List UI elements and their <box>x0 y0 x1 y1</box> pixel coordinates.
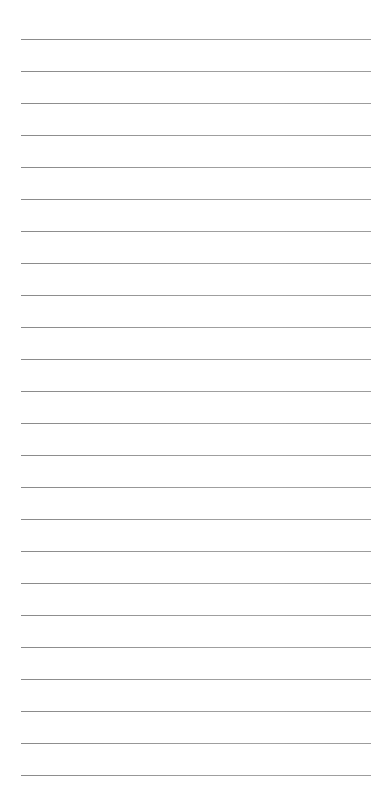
ruled-line <box>21 551 371 552</box>
ruled-line <box>21 199 371 200</box>
ruled-line <box>21 327 371 328</box>
ruled-line <box>21 455 371 456</box>
ruled-line <box>21 775 371 776</box>
ruled-line <box>21 615 371 616</box>
ruled-line <box>21 743 371 744</box>
ruled-line <box>21 359 371 360</box>
ruled-line <box>21 135 371 136</box>
ruled-line <box>21 583 371 584</box>
ruled-line <box>21 487 371 488</box>
ruled-line <box>21 519 371 520</box>
ruled-line <box>21 231 371 232</box>
ruled-line <box>21 647 371 648</box>
ruled-line <box>21 295 371 296</box>
ruled-line <box>21 103 371 104</box>
ruled-line <box>21 423 371 424</box>
ruled-line <box>21 711 371 712</box>
ruled-line <box>21 71 371 72</box>
lined-paper-page <box>0 0 388 800</box>
ruled-line <box>21 39 371 40</box>
ruled-line <box>21 263 371 264</box>
ruled-line <box>21 391 371 392</box>
ruled-line <box>21 167 371 168</box>
ruled-line <box>21 679 371 680</box>
